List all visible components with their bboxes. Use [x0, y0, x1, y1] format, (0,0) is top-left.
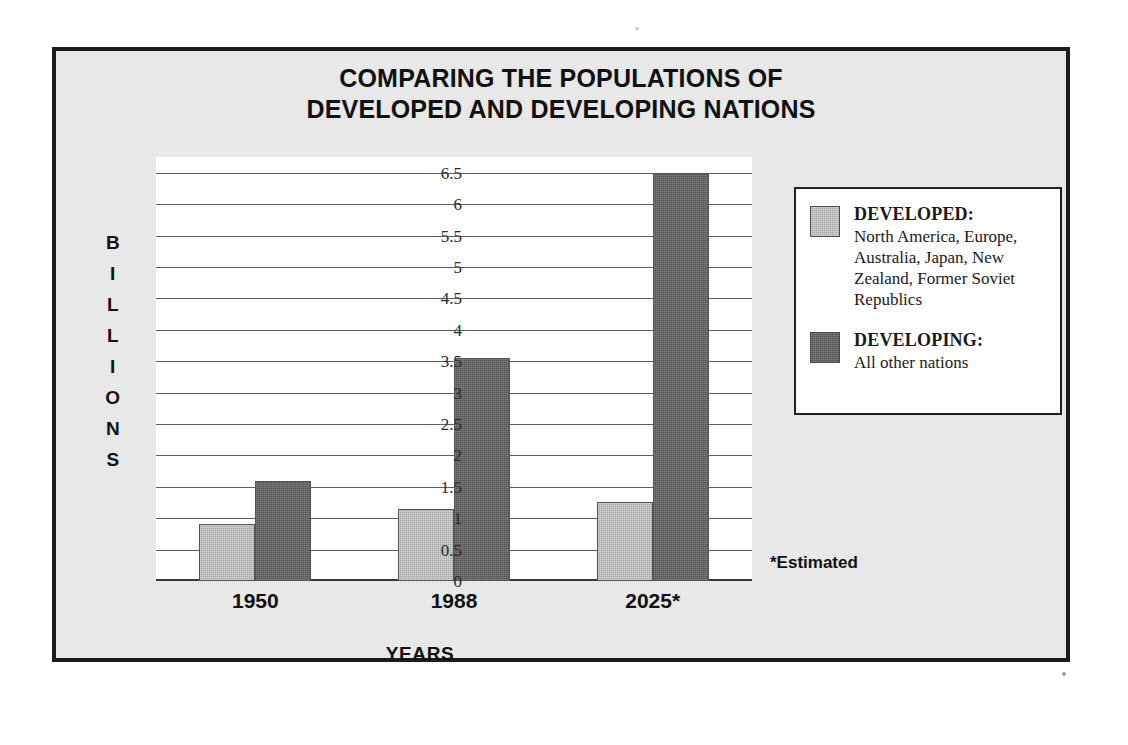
- y-axis-tick-label: 2: [392, 447, 462, 464]
- bar-developing-1988: [454, 358, 510, 581]
- bar-developed-1950: [199, 524, 255, 581]
- legend-text-developing: DEVELOPING: All other nations: [854, 329, 1050, 373]
- y-axis-title: B I L L I O N S: [100, 227, 126, 475]
- legend-text-developed: DEVELOPED: North America, Europe, Austra…: [854, 203, 1050, 310]
- bar-developing-1950: [255, 481, 311, 582]
- y-axis-tick-label: 3: [392, 385, 462, 402]
- legend-description: All other nations: [854, 352, 1050, 373]
- estimated-footnote: *Estimated: [770, 553, 858, 573]
- bar-developed-2025: [597, 502, 653, 581]
- y-axis-tick-label: 1: [392, 510, 462, 527]
- y-axis-title-letter: B: [100, 227, 126, 258]
- chart-legend: DEVELOPED: North America, Europe, Austra…: [794, 187, 1062, 415]
- legend-description: North America, Europe, Australia, Japan,…: [854, 226, 1050, 310]
- y-axis-tick-label: 1.5: [392, 479, 462, 496]
- legend-swatch-developing-icon: [810, 332, 840, 363]
- x-axis-tick-label: 1950: [180, 589, 330, 613]
- scan-artifact-dot: [1062, 672, 1066, 676]
- y-axis-title-letter: S: [100, 444, 126, 475]
- y-axis-title-letter: L: [100, 320, 126, 351]
- legend-swatch-developed-icon: [810, 206, 840, 237]
- y-axis-title-letter: L: [100, 289, 126, 320]
- chart-poster-frame: COMPARING THE POPULATIONS OF DEVELOPED A…: [52, 47, 1070, 662]
- y-axis-title-letter: N: [100, 413, 126, 444]
- y-axis-tick-label: 4.5: [392, 290, 462, 307]
- chart-poster-interior: COMPARING THE POPULATIONS OF DEVELOPED A…: [56, 51, 1066, 658]
- x-axis-title: YEARS: [270, 643, 570, 665]
- y-axis-tick-label: 6: [392, 196, 462, 213]
- y-axis-tick-label: 6.5: [392, 165, 462, 182]
- scan-artifact-speck: ′′: [634, 22, 651, 38]
- legend-heading: DEVELOPING:: [854, 329, 1050, 352]
- y-axis-title-letter: O: [100, 382, 126, 413]
- x-axis-tick-label: 1988: [379, 589, 529, 613]
- y-axis-tick-label: 3.5: [392, 353, 462, 370]
- title-line-2: DEVELOPED AND DEVELOPING NATIONS: [56, 94, 1066, 125]
- y-axis-tick-label: 2.5: [392, 416, 462, 433]
- y-axis-tick-label: 0.5: [392, 542, 462, 559]
- bar-developing-2025: [653, 173, 709, 581]
- y-axis-tick-label: 4: [392, 322, 462, 339]
- y-axis-title-letter: I: [100, 258, 126, 289]
- page-title: COMPARING THE POPULATIONS OF DEVELOPED A…: [56, 63, 1066, 125]
- y-axis-tick-label: 0: [392, 573, 462, 590]
- x-axis-tick-label: 2025*: [578, 589, 728, 613]
- page-background: ′′ COMPARING THE POPULATIONS OF DEVELOPE…: [0, 0, 1128, 745]
- title-line-1: COMPARING THE POPULATIONS OF: [56, 63, 1066, 94]
- legend-heading: DEVELOPED:: [854, 203, 1050, 226]
- y-axis-tick-label: 5.5: [392, 228, 462, 245]
- y-axis-tick-label: 5: [392, 259, 462, 276]
- y-axis-title-letter: I: [100, 351, 126, 382]
